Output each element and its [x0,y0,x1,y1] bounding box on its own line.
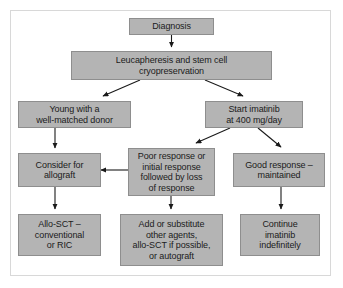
node-allo-sct[interactable]: Allo-SCT – conventional or RIC [18,214,101,256]
node-good-response[interactable]: Good response – maintained [233,153,325,187]
node-leucapheresis[interactable]: Leucapheresis and stem cell cryopreserva… [71,51,272,80]
edge-leucapheresis-to-young-donor [103,80,140,96]
node-consider-allograft[interactable]: Consider for allograft [18,153,101,187]
node-young-donor[interactable]: Young with a well-matched donor [18,101,131,128]
node-add-substitute[interactable]: Add or substitute other agents, allo-SCT… [120,214,223,266]
node-poor-response[interactable]: Poor response or initial response follow… [128,148,215,196]
node-continue-imatinib[interactable]: Continue imatinib indefinitely [240,214,320,256]
node-diagnosis[interactable]: Diagnosis [129,18,214,35]
node-start-imatinib[interactable]: Start imatinib at 400 mg/day [205,101,303,128]
edge-start-imatinib-to-good-response [258,128,281,147]
edge-leucapheresis-to-start-imatinib [205,80,243,96]
edge-start-imatinib-to-poor-response [196,128,230,143]
flowchart-canvas: Diagnosis Leucapheresis and stem cell cr… [0,0,343,288]
